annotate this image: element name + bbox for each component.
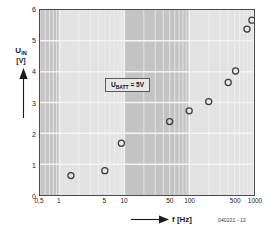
x-tick-label: 0,5 (34, 197, 43, 205)
y-tick-label: 1 (32, 161, 36, 168)
y-axis-title: UIN [V] (6, 46, 36, 65)
data-point (249, 17, 254, 23)
x-tick-label: 100 (184, 197, 195, 205)
x-axis-title: f [Hz] (131, 215, 192, 224)
data-point (68, 173, 74, 179)
data-point (206, 99, 212, 105)
y-tick-label: 5 (32, 37, 36, 44)
y-tick-label: 2 (32, 130, 36, 137)
data-points-layer (40, 10, 254, 195)
x-tick-label: 5 (103, 197, 107, 205)
plot-area (39, 9, 255, 196)
data-point (186, 108, 192, 114)
x-axis-title-label: f [Hz] (172, 215, 192, 224)
y-axis-arrow-icon (19, 68, 28, 118)
data-point (244, 26, 250, 32)
x-axis-arrow-icon (131, 215, 169, 224)
y-tick-label: 6 (32, 6, 36, 13)
y-tick-label: 3 (32, 99, 36, 106)
figure-code: 040221 - 12 (218, 217, 246, 223)
y-axis-title-symbol: UIN (6, 46, 36, 56)
data-point (233, 68, 239, 74)
x-tick-label: 500 (230, 197, 241, 205)
y-tick-label: 4 (32, 68, 36, 75)
y-axis-title-unit: [V] (6, 56, 36, 65)
x-tick-label: 1 (57, 197, 61, 205)
data-point (118, 140, 124, 146)
annotation-ubatt: UBATT = 5V (105, 78, 150, 92)
figure-root: 0123456 UIN [V] UBATT = 5V 0,51510501005… (0, 0, 267, 239)
x-tick-label: 10 (121, 197, 128, 205)
data-point (225, 79, 231, 85)
data-point (102, 168, 108, 174)
x-tick-label: 50 (166, 197, 173, 205)
x-axis-tick-labels: 0,51510501005001000 (0, 197, 267, 211)
x-tick-label: 1000 (248, 197, 262, 205)
data-point (167, 119, 173, 125)
